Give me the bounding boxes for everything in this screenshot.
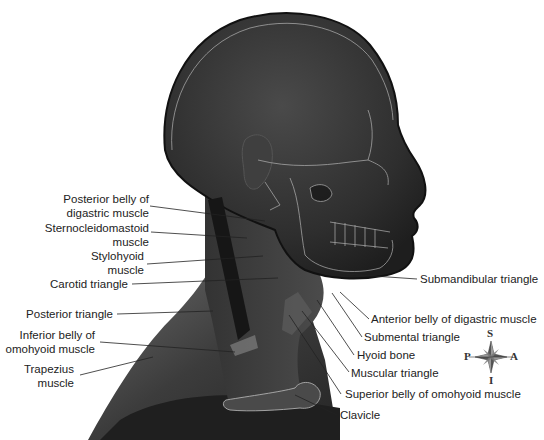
orientation-compass [469,341,513,373]
label-line: Muscular triangle [351,366,439,380]
head-neck-illustration [0,0,544,440]
label-line: Clavicle [340,408,380,422]
label-line: Inferior belly of [6,328,95,342]
compass-posterior: P [464,350,471,362]
label-line: Posterior triangle [26,307,113,321]
label-anterior-belly-digastric: Anterior belly of digastric muscle [371,312,537,326]
label-line: Sternocleidomastoid [45,221,149,235]
compass-superior: S [487,327,493,339]
label-clavicle: Clavicle [340,408,380,422]
label-line: Submandibular triangle [420,272,538,286]
label-submental-triangle: Submental triangle [364,330,460,344]
label-line: muscle [24,376,74,390]
label-posterior-belly-digastric: Posterior belly of digastric muscle [63,192,149,220]
label-line: Anterior belly of digastric muscle [371,312,537,326]
label-line: Carotid triangle [50,277,128,291]
label-carotid-triangle: Carotid triangle [50,277,128,291]
label-line: Trapezius [24,362,74,376]
label-hyoid-bone: Hyoid bone [357,348,415,362]
head-silhouette [164,13,425,278]
label-line: Hyoid bone [357,348,415,362]
label-line: muscle [45,235,149,249]
label-inferior-belly-omohyoid: Inferior belly of omohyoid muscle [6,328,95,356]
label-line: Stylohyoid [91,249,144,263]
label-line: Posterior belly of [63,192,149,206]
label-line: digastric muscle [63,206,149,220]
label-line: omohyoid muscle [6,342,95,356]
compass-anterior: A [510,350,518,362]
label-sternocleidomastoid: Sternocleidomastoid muscle [45,221,149,249]
label-posterior-triangle: Posterior triangle [26,307,113,321]
label-superior-belly-omohyoid: Superior belly of omohyoid muscle [345,387,521,401]
label-submandibular-triangle: Submandibular triangle [420,272,538,286]
label-trapezius: Trapezius muscle [24,362,74,390]
label-line: muscle [91,263,144,277]
label-line: Submental triangle [364,330,460,344]
label-line: Superior belly of omohyoid muscle [345,387,521,401]
compass-inferior: I [489,374,493,386]
label-muscular-triangle: Muscular triangle [351,366,439,380]
label-stylohyoid: Stylohyoid muscle [91,249,144,277]
